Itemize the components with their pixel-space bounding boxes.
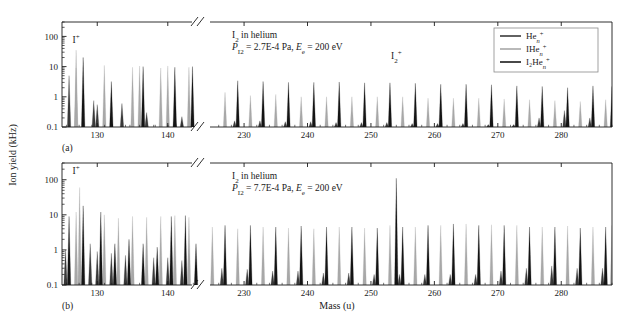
peak [78, 188, 81, 285]
peak [246, 269, 249, 285]
axis-break-mark [191, 158, 198, 167]
peak [452, 98, 455, 127]
peak [173, 67, 176, 127]
y-axis-label: Ion yield (kHz) [7, 124, 19, 186]
peak [401, 227, 404, 285]
peak [515, 225, 518, 285]
peak [474, 274, 477, 285]
peak [423, 274, 426, 285]
peak [312, 229, 315, 285]
peak [388, 83, 391, 127]
I-plus-label: I+ [73, 33, 80, 45]
peak [113, 244, 116, 285]
peak [187, 67, 190, 127]
series-IHe_n+ [74, 188, 613, 285]
peak [541, 227, 544, 285]
peak [67, 76, 70, 127]
peak [376, 228, 379, 285]
peak [452, 224, 455, 285]
peak [299, 226, 302, 285]
peak [325, 97, 328, 127]
I2-plus-label: I2+ [391, 49, 402, 65]
peak [145, 113, 148, 127]
peak [131, 216, 134, 285]
peak [261, 227, 264, 285]
y-tick-label: 0.1 [47, 280, 58, 290]
peak [477, 225, 480, 285]
peak [152, 258, 155, 285]
peak [372, 274, 375, 285]
peak [117, 218, 120, 285]
peak [410, 124, 413, 127]
peak [347, 273, 350, 285]
peak [436, 124, 439, 127]
peak [223, 225, 226, 285]
peak [604, 227, 607, 285]
peak [99, 212, 102, 285]
peak [223, 92, 226, 127]
peaks-group [64, 178, 614, 285]
peak [184, 216, 187, 285]
x-tick-label: 140 [161, 288, 175, 298]
peak [299, 97, 302, 127]
peak [284, 122, 287, 127]
peak [528, 227, 531, 285]
peak [156, 247, 159, 285]
peak [363, 83, 366, 127]
panel-conditions: PI2 = 2.7E-4 Pa, Ee = 200 eV [231, 42, 343, 56]
peak [550, 266, 553, 285]
peak [464, 84, 467, 127]
peak [566, 88, 569, 127]
peak [312, 82, 315, 127]
peak [145, 217, 148, 285]
peak [81, 58, 84, 127]
peak [376, 97, 379, 127]
y-tick-label: 0.1 [47, 122, 58, 132]
peak [502, 99, 505, 127]
peak [110, 253, 113, 285]
peak [166, 258, 169, 285]
peak [575, 268, 578, 285]
peak [604, 100, 607, 127]
peak [553, 227, 556, 285]
peak [388, 225, 391, 285]
peak [110, 82, 113, 127]
peak [334, 123, 337, 127]
peak [287, 82, 290, 127]
x-tick-label: 230 [237, 288, 251, 298]
peak [131, 67, 134, 127]
x-tick-label: 260 [428, 288, 442, 298]
panel-tag-a: (a) [62, 143, 73, 154]
peak [395, 178, 398, 285]
panel-tag-b: (b) [62, 301, 73, 312]
peak [439, 84, 442, 127]
peak [350, 227, 353, 285]
peak [236, 81, 239, 127]
peak [398, 274, 401, 285]
peak [170, 216, 173, 285]
peak [515, 86, 518, 127]
peak [166, 66, 169, 127]
peak [601, 268, 604, 285]
peak [350, 97, 353, 127]
peak [338, 227, 341, 285]
peak [414, 83, 417, 127]
peak [477, 98, 480, 127]
x-tick-label: 280 [555, 288, 569, 298]
peak [81, 206, 84, 285]
peak [426, 225, 429, 285]
x-tick-label: 240 [301, 288, 315, 298]
peak [103, 65, 106, 127]
peak [563, 111, 566, 127]
peak [103, 215, 106, 285]
peak [124, 255, 127, 285]
peak [141, 244, 144, 285]
peak [187, 217, 190, 285]
x-tick-label: 250 [364, 288, 378, 298]
peak [141, 67, 144, 127]
y-tick-label: 1 [54, 245, 59, 255]
peak [499, 271, 502, 285]
series-He_n+ [64, 244, 604, 285]
peak [553, 101, 556, 127]
peak [528, 100, 531, 127]
